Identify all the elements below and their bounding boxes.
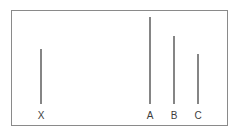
line-label-a: A — [143, 111, 157, 121]
line-segment-b — [173, 36, 175, 104]
line-segment-x — [40, 49, 42, 104]
line-label-x: X — [34, 111, 48, 121]
line-label-b: B — [167, 111, 181, 121]
figure-frame-border: X A B C — [11, 10, 228, 126]
line-segment-c — [197, 54, 199, 104]
line-stimuli-group: X A B C — [12, 11, 227, 125]
line-label-c: C — [191, 111, 205, 121]
line-segment-a — [149, 17, 151, 104]
figure-root: X A B C — [0, 0, 241, 134]
